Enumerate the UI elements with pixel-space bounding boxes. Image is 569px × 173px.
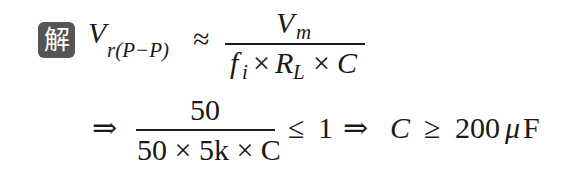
numerator-variable: V [276, 6, 294, 40]
den-f: f [230, 46, 238, 80]
den-R: R [275, 46, 293, 80]
numerator-subscript: m [296, 20, 311, 45]
geq-symbol: ≥ [424, 111, 440, 145]
value-one: 1 [318, 111, 333, 145]
den-C: C [337, 46, 357, 80]
den-f-subscript: i [242, 60, 248, 85]
leq-symbol: ≤ [288, 111, 304, 145]
unit-mu: μ [505, 111, 520, 145]
capacitance-variable: C [390, 111, 410, 145]
fraction-bar-1 [225, 43, 365, 45]
fraction-bar-2 [136, 129, 275, 131]
lhs-variable: V [88, 16, 106, 50]
approx-symbol: ≈ [193, 22, 209, 56]
implies-symbol-2: ⇒ [343, 110, 368, 145]
denominator-text: 50 × 5k × C [137, 133, 281, 166]
lhs-subscript: r(P−P) [107, 38, 169, 63]
capacitance-value: 200 [455, 111, 500, 145]
unit-farad: F [523, 111, 540, 145]
fraction2-numerator: 50 [190, 93, 220, 127]
den-times-1: × [253, 46, 270, 80]
implies-symbol-1: ⇒ [92, 110, 117, 145]
solution-badge: 解 [38, 22, 75, 58]
den-R-subscript: L [293, 60, 305, 85]
den-times-2: × [313, 46, 330, 80]
fraction2-denominator: 50 × 5k × C [137, 133, 281, 167]
